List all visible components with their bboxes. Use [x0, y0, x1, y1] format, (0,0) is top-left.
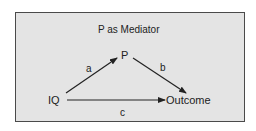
node-iq: IQ	[48, 95, 60, 106]
node-outcome: Outcome	[166, 95, 211, 106]
edges-layer	[0, 0, 256, 131]
node-p: P	[121, 50, 128, 61]
edge-label-b: b	[160, 63, 166, 73]
edge-label-a: a	[86, 64, 92, 74]
diagram-title: P as Mediator	[98, 25, 160, 35]
edge-label-c: c	[120, 108, 125, 118]
